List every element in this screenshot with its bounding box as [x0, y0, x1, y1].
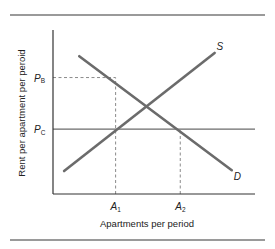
x-axis-label: Apartments per period — [100, 218, 194, 229]
demand-curve-label: D — [234, 171, 241, 182]
supply-curve — [64, 53, 214, 171]
y-tick-label-b: PB — [34, 73, 45, 85]
y-axis-label: Rent per apartment per peroid — [16, 49, 27, 176]
y-tick-label-c: PC — [34, 124, 46, 136]
supply-curve-label: S — [217, 41, 224, 52]
supply-demand-chart: SD PBPCA1A2 Rent per apartment per peroi… — [0, 0, 275, 249]
x-tick-label-1: A1 — [110, 201, 122, 213]
x-tick-label-2: A2 — [174, 201, 186, 213]
demand-curve — [79, 56, 232, 170]
